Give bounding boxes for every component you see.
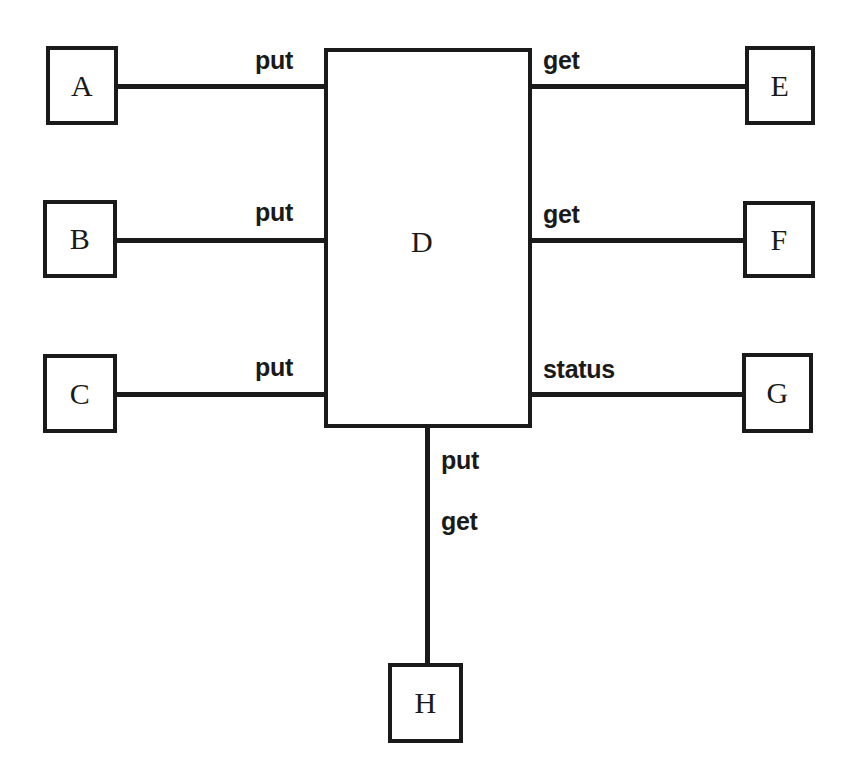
edge-label-d-f: get [543,202,580,227]
edge-label-a-d: put [255,48,293,73]
diagram-canvas: put put put get get status put get D A B… [0,0,859,783]
edge-a-d-line [116,84,328,89]
node-box-e: E [745,46,815,125]
node-label-d: D [411,227,433,257]
edge-d-e-line [528,84,749,89]
edge-b-d-line [115,238,328,243]
node-box-g: G [742,353,813,433]
node-label-e: E [771,71,790,101]
edge-label-d-h-put: put [441,448,479,473]
node-label-a: A [71,71,93,101]
edge-d-g-line [528,392,746,397]
edge-label-d-h-get: get [441,509,478,534]
node-label-f: F [770,225,787,255]
node-label-b: B [70,224,91,254]
edge-label-d-e: get [543,48,580,73]
node-label-g: G [766,378,788,408]
edge-label-b-d: put [255,200,293,225]
edge-d-h-line [425,424,430,667]
node-box-f: F [743,201,815,278]
edge-label-c-d: put [255,355,293,380]
edge-d-f-line [528,238,747,243]
node-box-h: H [388,663,463,743]
edge-label-d-g: status [543,357,615,382]
node-box-b: B [43,200,117,278]
node-box-c: C [43,354,117,433]
node-box-a: A [46,46,118,125]
edge-c-d-line [115,392,328,397]
node-label-h: H [414,688,436,718]
node-label-c: C [70,379,91,409]
